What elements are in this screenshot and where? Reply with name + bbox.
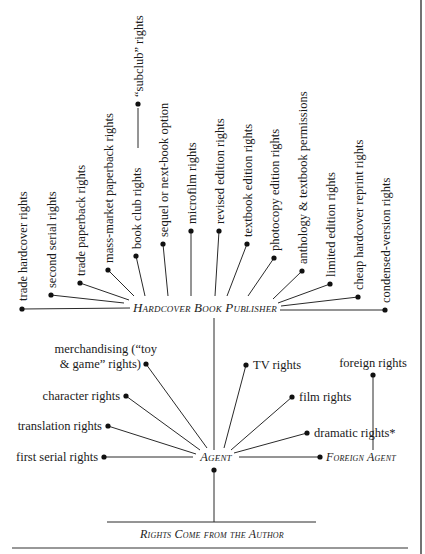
right-film: film rights	[299, 390, 352, 404]
right-book-club: book club rights	[130, 168, 144, 249]
right-merchandising-line1: merchandising (“toy	[55, 342, 158, 356]
right-microfilm: microfilm rights	[185, 142, 199, 224]
right-anthology-permissions: anthology & textbook permissions	[296, 91, 310, 264]
right-translation: translation rights	[18, 419, 102, 433]
right-merchandising-line2: & game” rights)	[60, 357, 141, 371]
right-limited-edition: limited edition rights	[324, 172, 338, 277]
author-node: Rights Come from the Author	[139, 527, 284, 541]
foreign-agent-node: Foreign Agent	[325, 450, 396, 464]
rights-diagram: trade hardcover rights second serial rig…	[0, 0, 425, 554]
right-condensed-version: condensed-version rights	[379, 178, 393, 303]
right-tv: TV rights	[253, 358, 301, 372]
publisher-node: Hardcover Book Publisher	[132, 300, 277, 315]
right-textbook-edition: textbook edition rights	[241, 124, 255, 237]
right-character: character rights	[43, 389, 121, 403]
right-sequel-option: sequel or next-book option	[157, 102, 171, 237]
right-mass-market: mass-market paperback rights	[102, 113, 116, 263]
right-second-serial: second serial rights	[45, 191, 59, 288]
right-subclub: “subclub” rights	[132, 15, 146, 97]
right-revised-edition: revised edition rights	[213, 118, 227, 224]
publisher-rights-labels: trade hardcover rights second serial rig…	[16, 15, 393, 303]
right-cheap-hardcover-reprint: cheap hardcover reprint rights	[352, 140, 366, 290]
right-trade-paperback: trade paperback rights	[74, 165, 88, 276]
right-trade-hardcover: trade hardcover rights	[16, 191, 30, 301]
right-foreign: foreign rights	[339, 356, 407, 370]
right-dramatic: dramatic rights*	[314, 426, 396, 440]
right-first-serial: first serial rights	[16, 450, 98, 464]
right-photocopy-edition: photocopy edition rights	[268, 129, 282, 251]
agent-node: Agent	[199, 450, 232, 464]
